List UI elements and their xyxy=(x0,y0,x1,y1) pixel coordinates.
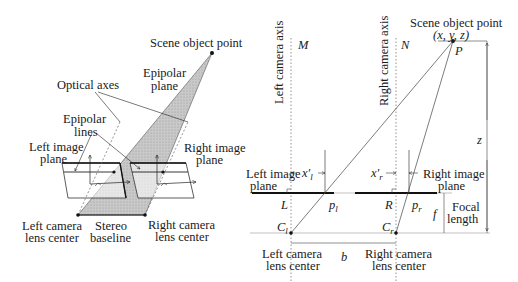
label-right-camera-lens-center-2: lens center xyxy=(372,260,426,272)
Cl-dot xyxy=(289,231,293,235)
left-lens-center-dot xyxy=(76,213,80,217)
x-r-sub: r xyxy=(379,172,383,182)
label-p-r: pr xyxy=(412,199,422,215)
label-stereo-baseline-2: baseline xyxy=(90,232,131,244)
x-l-sub: l xyxy=(310,172,313,182)
label-b: b xyxy=(341,251,347,263)
right-lens-center-dot xyxy=(143,213,147,217)
p-r-sub: r xyxy=(418,204,422,214)
left-image-plane xyxy=(62,163,126,198)
label-left-lens-center-2: lens center xyxy=(25,232,79,244)
label-right-image-plane-2: plane xyxy=(196,154,223,166)
Cr-dot xyxy=(394,231,398,235)
label-f: f xyxy=(433,208,436,220)
label-focal-length-2: length xyxy=(447,213,478,225)
label-right-image-plane-r2: plane xyxy=(438,180,465,192)
label-x-r: x′r xyxy=(371,167,383,183)
label-C-r: Cr xyxy=(382,221,394,237)
label-z: z xyxy=(477,134,482,146)
label-optical-axes: Optical axes xyxy=(57,79,119,91)
label-scene-object-point-left: Scene object point xyxy=(150,37,242,49)
label-left-image-plane-r2: plane xyxy=(250,180,277,192)
label-right-camera-axis: Right camera axis xyxy=(377,16,392,106)
p-l-sub: l xyxy=(335,204,338,214)
label-C-l: Cl xyxy=(277,221,288,237)
label-L: L xyxy=(281,199,288,211)
label-left-camera-axis: Left camera axis xyxy=(272,21,287,104)
label-epipolar-plane-2: plane xyxy=(151,80,178,92)
label-x-l: x′l xyxy=(302,167,313,183)
left-ray xyxy=(291,41,453,233)
label-coords: (x, y, z) xyxy=(433,29,469,41)
label-epipolar-plane-1: Epipolar xyxy=(143,67,186,79)
C-l-sub: l xyxy=(285,226,288,236)
label-R: R xyxy=(385,199,393,211)
right-image-plane xyxy=(130,163,194,198)
label-M: M xyxy=(298,39,308,51)
label-P: P xyxy=(455,45,463,57)
label-p-l: pl xyxy=(329,199,338,215)
label-right-lens-center-2: lens center xyxy=(155,231,209,243)
label-left-camera-lens-center-2: lens center xyxy=(266,260,320,272)
label-N: N xyxy=(401,39,409,51)
label-epipolar-lines-2: lines xyxy=(74,126,98,138)
right-ray xyxy=(396,41,453,233)
C-r-sub: r xyxy=(390,226,394,236)
label-left-image-plane-2: plane xyxy=(40,153,67,165)
label-epipolar-lines-1: Epipolar xyxy=(63,113,106,125)
scene-object-point-dot xyxy=(210,51,214,55)
